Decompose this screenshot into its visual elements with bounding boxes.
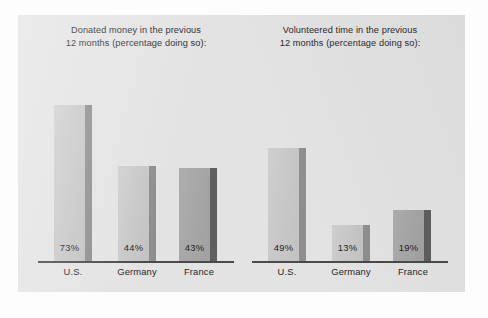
bar-side-shadow (149, 166, 156, 261)
bar-france: 19% (393, 210, 431, 261)
bar-face (393, 210, 424, 261)
bar-side-shadow (85, 105, 92, 261)
chart-title-volunteered-time: Volunteered time in the previous 12 mont… (250, 24, 450, 49)
bar-germany: 13% (332, 225, 370, 261)
bar-value-label-france: 43% (179, 242, 210, 253)
category-label-germany: Germany (320, 266, 382, 277)
category-label-france: France (386, 266, 440, 277)
bar-side-shadow (210, 168, 217, 261)
bar-us: 73% (54, 105, 92, 261)
chart-title-line-2: 12 months (percentage doing so): (250, 37, 450, 50)
bar-value-label-us: 73% (54, 242, 85, 253)
category-label-france: France (172, 266, 226, 277)
bar-side-shadow (424, 210, 431, 261)
category-label-us: U.S. (46, 266, 100, 277)
plot-area-volunteered-time: 49% 13% 19% (250, 55, 450, 263)
bar-germany: 44% (118, 166, 156, 261)
chart-title-line-1: Volunteered time in the previous (250, 24, 450, 37)
bar-value-label-us: 49% (268, 242, 299, 253)
chart-donated-money: Donated money in the previous 12 months … (36, 15, 236, 292)
bar-side-shadow (363, 225, 370, 261)
figure-page: Donated money in the previous 12 months … (0, 0, 488, 318)
x-axis-line (252, 261, 448, 263)
category-label-us: U.S. (260, 266, 314, 277)
bar-france: 43% (179, 168, 217, 261)
plot-area-donated-money: 73% 44% 43% (36, 55, 236, 263)
category-labels-volunteered-time: U.S. Germany France (250, 266, 450, 282)
bar-value-label-germany: 13% (332, 242, 363, 253)
chart-title-donated-money: Donated money in the previous 12 months … (36, 24, 236, 49)
bar-side-shadow (299, 148, 306, 261)
bar-value-label-germany: 44% (118, 242, 149, 253)
bar-us: 49% (268, 148, 306, 261)
chart-title-line-1: Donated money in the previous (36, 24, 236, 37)
bar-value-label-france: 19% (393, 242, 424, 253)
x-axis-line (38, 261, 234, 263)
chart-title-line-2: 12 months (percentage doing so): (36, 37, 236, 50)
chart-volunteered-time: Volunteered time in the previous 12 mont… (250, 15, 450, 292)
figure-panel: Donated money in the previous 12 months … (18, 15, 465, 292)
category-label-germany: Germany (106, 266, 168, 277)
category-labels-donated-money: U.S. Germany France (36, 266, 236, 282)
bar-face (54, 105, 85, 261)
